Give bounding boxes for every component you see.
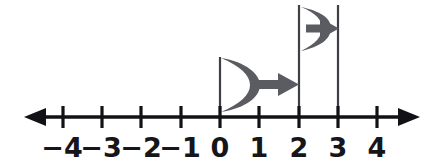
tick-label-4: 4 bbox=[368, 132, 387, 163]
axis-arrowhead-right bbox=[398, 108, 420, 126]
jump-arrowhead-2-to-3 bbox=[306, 18, 339, 39]
jump-arrow-2-to-3 bbox=[301, 7, 339, 51]
tick-label--3: −3 bbox=[80, 132, 121, 163]
tick-label-2: 2 bbox=[290, 132, 309, 163]
tick-labels-group: −4 −3 −2 −1 0 1 2 3 4 bbox=[41, 132, 386, 163]
number-line-figure: −4 −3 −2 −1 0 1 2 3 4 bbox=[0, 0, 438, 163]
tick-label-3: 3 bbox=[329, 132, 348, 163]
tick-label-0: 0 bbox=[211, 132, 230, 163]
jump-arrow-0-to-2 bbox=[221, 58, 299, 112]
tick-label--4: −4 bbox=[41, 132, 82, 163]
axis-arrowhead-left bbox=[24, 108, 46, 126]
jump-arrowhead-0-to-2 bbox=[252, 73, 299, 96]
axis-group bbox=[24, 108, 420, 126]
tick-label--1: −1 bbox=[159, 132, 200, 163]
tick-label-1: 1 bbox=[250, 132, 269, 163]
tick-label--2: −2 bbox=[120, 132, 161, 163]
number-line-canvas: −4 −3 −2 −1 0 1 2 3 4 bbox=[0, 0, 438, 163]
